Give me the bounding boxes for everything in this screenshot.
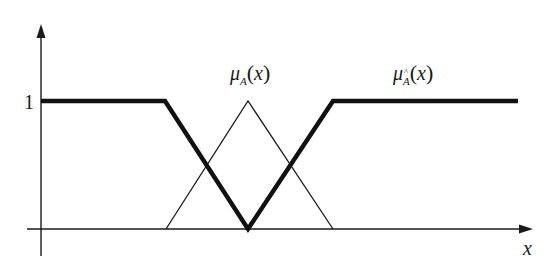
y-tick-one: 1 bbox=[24, 92, 34, 112]
mu-a-curve bbox=[166, 101, 333, 229]
open-paren: ( bbox=[410, 60, 417, 85]
mu-symbol: μ bbox=[230, 62, 240, 84]
variable-x: x bbox=[254, 62, 263, 84]
mu-a-label: μA(x) bbox=[230, 62, 270, 84]
mu-symbol: μ bbox=[393, 62, 403, 84]
x-axis-label-text: x bbox=[523, 237, 532, 259]
close-paren: ) bbox=[263, 60, 270, 85]
x-axis-label: x bbox=[523, 238, 532, 258]
y-axis-arrow-icon bbox=[37, 24, 46, 38]
mu-a-hat-subscript: A bbox=[403, 76, 410, 87]
open-paren: ( bbox=[247, 60, 254, 85]
x-axis-arrow-icon bbox=[519, 225, 533, 234]
close-paren: ) bbox=[426, 60, 433, 85]
membership-diagram bbox=[0, 0, 549, 268]
mu-a-hat-label: μA(x) bbox=[393, 62, 433, 84]
mu-a-hat-curve bbox=[41, 101, 518, 229]
variable-x: x bbox=[417, 62, 426, 84]
y-tick-text: 1 bbox=[24, 91, 34, 113]
mu-a-subscript: A bbox=[240, 75, 247, 87]
